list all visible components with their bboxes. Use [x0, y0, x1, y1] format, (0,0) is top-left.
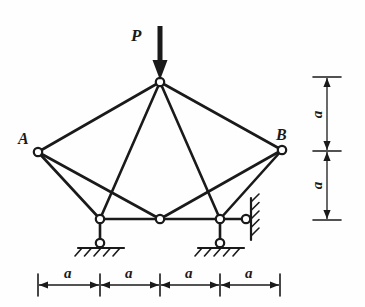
vdim-upper-label: a	[310, 111, 325, 119]
node-label-a: A	[18, 131, 29, 147]
hdim-2-label: a	[125, 266, 133, 281]
member-apex-b	[160, 82, 282, 150]
support-left-pin-pin	[96, 239, 104, 247]
bottom-mid-node	[156, 215, 164, 223]
member-apex-a	[38, 82, 160, 152]
member-a-bl	[38, 152, 100, 219]
vdim-lower-label: a	[310, 182, 325, 190]
support-right-wall-link-pin	[242, 215, 250, 223]
support-left-pin-hatching	[75, 248, 120, 256]
node-b	[278, 146, 286, 154]
member-b-bm	[160, 150, 282, 219]
diagram-canvas	[0, 0, 365, 307]
load-arrow-p	[153, 26, 168, 80]
support-right-pin-hatching	[195, 248, 240, 256]
support-right-wall-link-hatching	[251, 194, 259, 236]
hdim-2-arrow	[101, 281, 159, 288]
hdim-3-label: a	[185, 266, 193, 281]
hdim-4-label: a	[245, 266, 253, 281]
bottom-left-node	[96, 215, 104, 223]
bottom-right-node	[216, 215, 224, 223]
truss-diagram-figure: aaaaaaPAB	[0, 0, 365, 307]
hdim-3-arrow	[161, 281, 219, 288]
member-a-bm	[38, 152, 160, 219]
load-label-p: P	[131, 27, 141, 44]
node-a	[34, 148, 42, 156]
support-right-pin-pin	[216, 239, 224, 247]
hdim-1-label: a	[64, 266, 72, 281]
member-apex-br	[160, 82, 220, 219]
member-apex-bl	[100, 82, 160, 219]
node-label-b: B	[276, 127, 287, 143]
hdim-4-arrow	[221, 281, 279, 288]
hdim-1-arrow	[39, 281, 99, 288]
